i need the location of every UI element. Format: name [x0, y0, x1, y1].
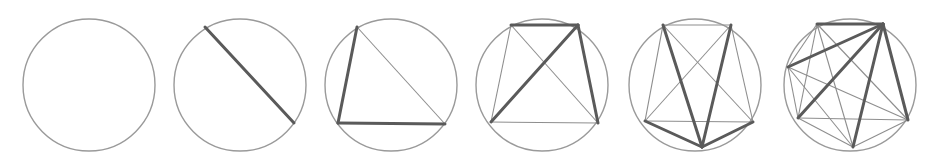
chord [511, 25, 598, 123]
highlighted-chord [491, 25, 578, 122]
chord [798, 118, 908, 120]
circle [476, 19, 608, 151]
highlighted-chord [883, 24, 908, 120]
chord [645, 121, 753, 122]
highlighted-chord [702, 122, 753, 147]
circle [629, 19, 761, 151]
chord [788, 67, 908, 120]
chord [788, 67, 853, 147]
diagram-3 [325, 19, 457, 151]
highlighted-chord [702, 25, 731, 147]
circle-chord-diagram [0, 0, 939, 160]
circle [23, 19, 155, 151]
diagram-1 [23, 19, 155, 151]
highlighted-chord [663, 25, 702, 147]
chord [663, 25, 753, 122]
highlighted-chord [205, 27, 294, 123]
chord [798, 118, 853, 147]
circle [174, 19, 306, 151]
diagram-2 [174, 19, 306, 151]
diagram-4 [476, 19, 608, 151]
chord [491, 122, 598, 123]
diagram-6 [784, 19, 916, 151]
highlighted-chord [578, 25, 598, 123]
highlighted-chord [338, 123, 445, 124]
chord [357, 27, 445, 124]
diagram-5 [629, 19, 761, 151]
